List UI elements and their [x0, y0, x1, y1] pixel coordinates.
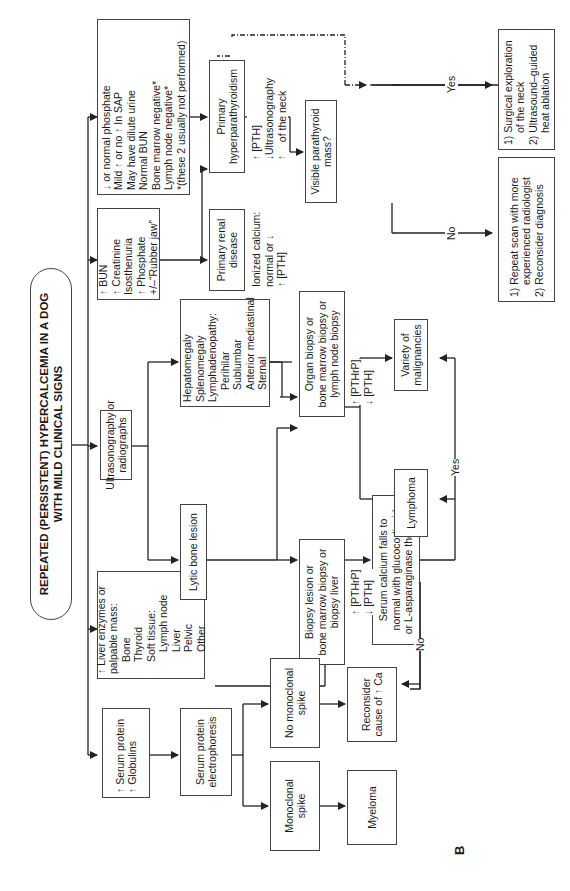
monoclonal-box: Monoclonal spike — [270, 761, 320, 851]
line: Perihilar — [219, 304, 232, 402]
line: ↓ [PTH] — [362, 569, 375, 615]
line: Hepatomegaly — [181, 304, 194, 402]
up-arrow-icon — [97, 290, 109, 295]
line: bone marrow biopsy or — [316, 549, 329, 656]
line: BUN — [97, 265, 109, 290]
line: Bone marrow negative* — [150, 24, 163, 190]
line: Biopsy lesion or — [303, 565, 316, 639]
no-label-top: No — [445, 227, 458, 240]
line: Ultrasonography — [263, 78, 276, 155]
line: 2) Ultrasound–guided — [527, 34, 540, 145]
no-label-bottom: No — [414, 638, 427, 651]
line: ↑ [PTHrP] — [349, 569, 362, 615]
organomegaly-box: Hepatomegaly Splenomegaly Lymphadenopath… — [180, 299, 270, 407]
organ-biopsy-box: Organ biopsy or bone marrow biopsy or ly… — [299, 291, 345, 417]
line: spike — [295, 794, 308, 819]
reconsider-ca-box: Reconsider cause of ↑ Ca — [347, 667, 397, 742]
line: or normal phosphate — [100, 86, 112, 185]
yes-label-bottom: Yes — [449, 459, 462, 476]
line: Myeloma — [366, 786, 379, 829]
line: biopsy liver — [328, 576, 341, 629]
figure-label: B — [452, 846, 467, 855]
line: 1) Repeat scan with more — [508, 162, 521, 297]
lytic-bone-box: Lytic bone lesion — [180, 504, 207, 600]
neck-us-label: Ultrasonography of the neck — [263, 78, 288, 155]
line: mass? — [321, 136, 334, 167]
line: +/–“Rubber jaw” — [147, 213, 160, 295]
visible-mass-box: Visible parathyroid mass? — [305, 100, 337, 203]
line: 2) Reconsider diagnosis — [533, 162, 546, 297]
line: *(these 2 usually not performed) — [175, 24, 188, 190]
line: No monoclonal — [283, 668, 296, 738]
line: Normal BUN — [137, 24, 150, 190]
line: lymph node biopsy — [328, 310, 341, 398]
line: Bone — [120, 576, 133, 674]
line: Thyroid — [132, 576, 145, 674]
line: of the neck — [276, 78, 289, 155]
yes-label-top: Yes — [445, 76, 458, 93]
line: malignancies — [411, 324, 424, 385]
line: Primary renal — [215, 219, 228, 281]
myeloma-box: Myeloma — [347, 770, 397, 845]
title-pill: REPEATED (PERSISTENT) HYPERCALCEMIA IN A… — [30, 268, 72, 620]
line: Organ biopsy or — [303, 317, 316, 392]
serum-protein-box: ↑ Serum protein ↑ Globulins — [102, 708, 150, 798]
line: Phosphate — [135, 237, 147, 290]
line: Lymph node negative* — [162, 24, 175, 190]
primary-hyperparathyroidism-box: Primary hyperparathyroidism — [209, 60, 245, 173]
line: Monoclonal — [283, 779, 296, 833]
line: ↑ [PTH] — [275, 212, 288, 287]
line: Ionized calcium: — [250, 212, 263, 287]
line: ↑ [PTH] — [250, 79, 263, 160]
line: disease — [227, 232, 240, 268]
imaging-box: Ultrasonography or radiographs — [100, 410, 132, 480]
line: normal or ↓ — [263, 212, 276, 287]
line: bone marrow biopsy or — [316, 301, 329, 408]
title-line2: WITH MILD CLINICAL SIGNS — [51, 366, 65, 522]
line: radiographs — [116, 417, 129, 472]
line: 1) Surgical exploration — [502, 34, 515, 145]
line: of the neck — [514, 34, 527, 145]
title-line1: REPEATED (PERSISTENT) HYPERCALCEMIA IN A… — [37, 293, 51, 596]
line: Primary — [215, 98, 228, 134]
line: Sternal — [256, 304, 269, 402]
line: Mild ↑ or no ↑ In SAP — [112, 24, 125, 190]
flowchart-canvas: REPEATED (PERSISTENT) HYPERCALCEMIA IN A… — [0, 0, 570, 891]
line: Visible parathyroid — [309, 108, 322, 194]
line: Serum protein — [194, 719, 207, 785]
variety-malignancies-box: Variety of malignancies — [394, 319, 428, 391]
line: Splenomegaly — [194, 304, 207, 402]
line: spike — [295, 691, 308, 716]
up-arrow-icon — [110, 290, 122, 295]
line: Sublumbar — [231, 304, 244, 402]
repeat-scan-box: 1) Repeat scan with more experienced rad… — [498, 157, 555, 302]
line: Ultrasonography or — [104, 400, 117, 489]
line: experienced radiologist — [520, 162, 533, 297]
lymphoma-box: Lymphoma — [394, 469, 428, 537]
line: Reconsider — [360, 678, 373, 731]
line: Serum calcium falls to — [377, 519, 390, 622]
organ-labs-label: ↑ [PTHrP] ↓ [PTH] — [349, 359, 374, 405]
line: electrophoresis — [206, 716, 219, 787]
line: Lymph node — [157, 576, 170, 674]
electrophoresis-box: Serum protein electrophoresis — [180, 708, 232, 796]
up-arrow-icon — [135, 290, 147, 295]
biopsy-lesion-box: Biopsy lesion or bone marrow biopsy or b… — [299, 539, 345, 665]
line: Isosthenuria — [122, 213, 135, 295]
no-monoclonal-box: No monoclonal spike — [270, 658, 320, 748]
line: ↑ Globulins — [126, 713, 139, 793]
line: cause of ↑ Ca — [372, 672, 385, 736]
hyperpara-findings-box: or normal phosphate Mild ↑ or no ↑ In SA… — [97, 19, 190, 195]
line: Soft tissue: — [145, 576, 158, 674]
line: Lymphadenopathy: — [206, 304, 219, 402]
renal-labs-label: Ionized calcium: normal or ↓ ↑ [PTH] — [250, 212, 288, 287]
line: Lymphoma — [405, 477, 418, 529]
line: May have dilute urine — [125, 24, 138, 190]
line: palpable mass: — [107, 576, 120, 674]
line: Variety of — [399, 333, 412, 377]
line: Creatinine — [110, 239, 122, 290]
line: hyperparathyroidism — [227, 69, 240, 164]
surgical-box: 1) Surgical exploration of the neck 2) U… — [498, 29, 555, 150]
line: heat ablation — [539, 34, 552, 145]
down-arrow-icon — [100, 185, 112, 190]
